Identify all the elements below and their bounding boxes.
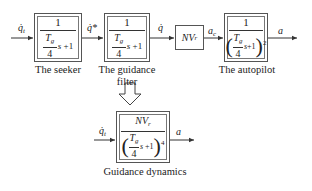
dynamics-numerator: NVr — [135, 115, 151, 130]
signal-qdot-t: q̇t — [18, 22, 25, 35]
guidance-filter-block: 1 Tg4 s +1 — [104, 13, 150, 62]
autopilot-block: 1 ( Tg4 s+1 )2 — [224, 13, 268, 62]
signal-qdot-star: q̇* — [87, 22, 97, 33]
guidance-filter-label: The guidance filter — [92, 64, 162, 88]
seeker-denominator: Tg4 s +1 — [43, 33, 73, 59]
dynamics-denominator: ( Tg4 s +1 )4 — [122, 133, 165, 159]
seeker-block: 1 Tg4 s +1 — [34, 13, 82, 62]
guidance-dynamics-label: Guidance dynamics — [100, 166, 190, 177]
signal-a: a — [278, 25, 283, 36]
gain-block: NVr — [175, 25, 204, 50]
signal-dyn-qdot-t: q̇t — [99, 125, 106, 138]
autopilot-numerator: 1 — [243, 16, 249, 28]
autopilot-denominator: ( Tg4 s+1 )2 — [226, 33, 267, 59]
seeker-label: The seeker — [28, 64, 88, 75]
signal-dyn-a: a — [176, 126, 181, 137]
filter-numerator: 1 — [124, 16, 130, 28]
seeker-numerator: 1 — [55, 16, 61, 28]
filter-denominator: Tg4 s +1 — [112, 33, 142, 59]
guidance-dynamics-block: NVr ( Tg4 s +1 )4 — [116, 111, 170, 163]
signal-ac: ac — [208, 25, 216, 38]
autopilot-label: The autopilot — [214, 64, 280, 75]
signal-qdot: q̇ — [158, 22, 163, 33]
